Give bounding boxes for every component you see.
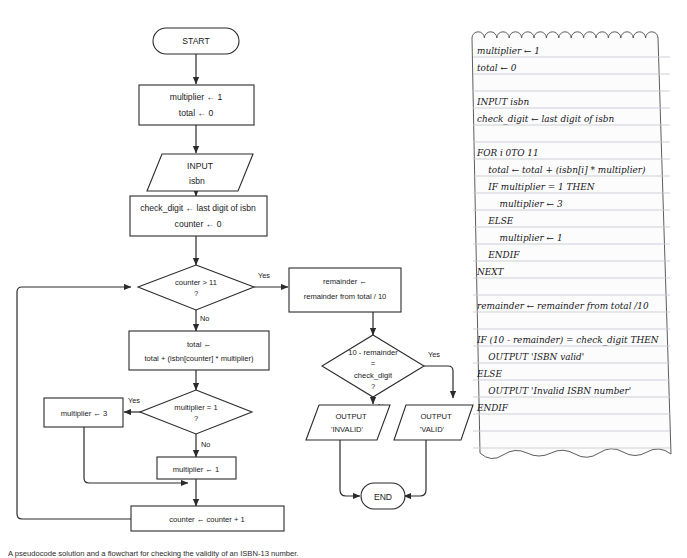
note-line-20: OUTPUT 'Invalid ISBN number' <box>477 386 631 396</box>
note-line-17: IF (10 - remainder) = check_digit THEN <box>476 335 660 346</box>
note-line-8: IF multiplier = 1 THEN <box>477 182 596 192</box>
note-line-15: remainder ← remainder from total /10 <box>477 301 649 311</box>
note-line-13: NEXT <box>476 267 505 277</box>
note-line-6: FOR i 0TO 11 <box>476 148 539 158</box>
note-line-11: multiplier ← 1 <box>477 233 563 243</box>
note-line-12: ENDIF <box>477 250 520 260</box>
note-line-7: total ← total + (isbn[i] * multiplier) <box>477 165 646 175</box>
figure-caption: A pseudocode solution and a flowchart fo… <box>8 549 298 558</box>
note-line-9: multiplier ← 3 <box>477 199 563 209</box>
note-line-21: ENDIF <box>476 403 509 413</box>
note-line-10: ELSE <box>477 216 514 226</box>
notepad-paper: multiplier ← 1 total ← 0 INPUT isbn chec… <box>472 32 671 459</box>
note-line-18: OUTPUT 'ISBN valid' <box>477 352 584 362</box>
note-line-3: INPUT isbn <box>476 97 529 107</box>
note-line-4: check_digit ← last digit of isbn <box>477 114 614 125</box>
note-line-1: total ← 0 <box>477 63 517 73</box>
note-line-19: ELSE <box>476 369 502 379</box>
note-line-0: multiplier ← 1 <box>477 46 540 56</box>
